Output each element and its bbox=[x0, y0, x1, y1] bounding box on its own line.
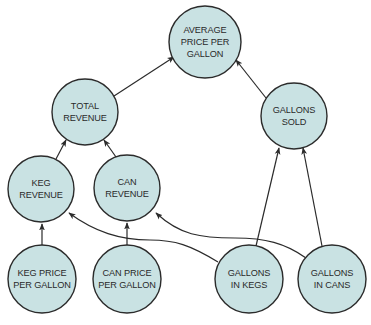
node-label: IN CANS bbox=[314, 280, 351, 290]
edge-sold-to-avg bbox=[236, 60, 266, 98]
node-keg-price-per-gallon: KEG PRICE PER GALLON bbox=[8, 245, 76, 313]
node-label: GALLONS bbox=[311, 268, 354, 278]
edge-total-to-avg bbox=[114, 57, 174, 96]
edge-canrev-to-total bbox=[104, 140, 116, 157]
node-label: GALLON bbox=[187, 49, 224, 59]
node-label: IN KEGS bbox=[231, 280, 268, 290]
node-label: GALLONS bbox=[228, 268, 271, 278]
node-label: REVENUE bbox=[105, 189, 149, 199]
node-label: PRICE PER bbox=[181, 37, 230, 47]
node-label: GALLONS bbox=[273, 105, 316, 115]
node-label: PER GALLON bbox=[98, 280, 156, 290]
node-average-price-per-gallon: AVERAGE PRICE PER GALLON bbox=[169, 6, 241, 78]
node-label: CAN bbox=[117, 177, 136, 187]
node-label: TOTAL bbox=[71, 101, 99, 111]
node-label: KEG bbox=[31, 178, 50, 188]
node-gallons-in-kegs: GALLONS IN KEGS bbox=[215, 245, 283, 313]
node-can-price-per-gallon: CAN PRICE PER GALLON bbox=[93, 245, 161, 313]
node-total-revenue: TOTAL REVENUE bbox=[52, 79, 118, 145]
node-label: REVENUE bbox=[19, 190, 63, 200]
node-keg-revenue: KEG REVENUE bbox=[8, 156, 74, 222]
node-can-revenue: CAN REVENUE bbox=[94, 155, 160, 221]
edge-cans-to-sold bbox=[303, 148, 322, 246]
node-label: AVERAGE bbox=[183, 25, 226, 35]
edge-kegs-to-sold bbox=[256, 148, 279, 246]
edge-kegrev-to-total bbox=[56, 140, 66, 159]
diagram-canvas: AVERAGE PRICE PER GALLON TOTAL REVENUE G… bbox=[0, 0, 371, 325]
node-label: PER GALLON bbox=[13, 280, 71, 290]
node-label: REVENUE bbox=[63, 113, 107, 123]
node-gallons-sold: GALLONS SOLD bbox=[261, 83, 327, 149]
node-label: CAN PRICE bbox=[102, 268, 151, 278]
node-gallons-in-cans: GALLONS IN CANS bbox=[298, 245, 366, 313]
node-label: SOLD bbox=[282, 117, 307, 127]
node-label: KEG PRICE bbox=[17, 268, 66, 278]
